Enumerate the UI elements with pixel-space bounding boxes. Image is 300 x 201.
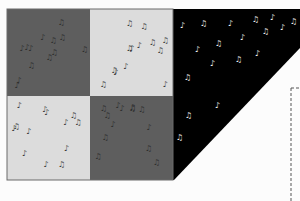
music-note-icon: ♫ [184, 73, 191, 82]
music-note-icon: ♪ [63, 118, 68, 127]
music-note-icon: ♪ [110, 120, 115, 129]
music-note-icon: ♫ [262, 27, 269, 36]
music-note-icon: ♫ [28, 61, 35, 70]
dashed-guide-line [291, 88, 300, 201]
music-note-icon: ♫ [290, 17, 297, 26]
music-note-icon: ♫ [50, 36, 57, 45]
music-note-icon: ♫ [126, 19, 133, 28]
music-note-icon: ♪ [215, 101, 220, 110]
music-note-icon: ♫ [252, 15, 259, 24]
black-triangle-patch [173, 9, 300, 180]
music-note-icon: ♪ [137, 41, 142, 50]
music-note-icon: ♫ [70, 111, 77, 120]
music-note-icon: ♪ [40, 33, 45, 42]
music-note-icon: ♫ [100, 80, 107, 89]
music-note-icon: ♫ [176, 133, 183, 142]
music-note-icon: ♫ [81, 45, 88, 54]
music-note-icon: ♫ [162, 36, 169, 45]
music-note-icon: ♫ [58, 18, 65, 27]
music-note-icon: ♪ [147, 123, 152, 132]
music-note-icon: ♫ [138, 105, 145, 114]
music-note-icon: ♪ [12, 124, 17, 133]
music-note-icon: ♫ [200, 19, 207, 28]
music-note-icon: ♪ [210, 59, 215, 68]
quilt-diagram: ♫♪♪♪♫♫♫♪♪♪♫♫♫♫♫♫♪♫♫♪♫♪♫♫♪♪♪♫♪♪♪♪♪♪♫♪♫♫♪♫… [0, 0, 300, 201]
music-note-icon: ♪ [163, 80, 168, 89]
music-note-icon: ♪ [43, 160, 48, 169]
music-note-icon: ♪ [228, 19, 233, 28]
music-note-icon: ♫ [95, 152, 102, 161]
music-note-icon: ♪ [113, 68, 118, 77]
music-note-icon: ♪ [26, 127, 31, 136]
music-note-icon: ♫ [51, 48, 58, 57]
music-note-icon: ♪ [123, 62, 128, 71]
music-note-icon: ♪ [44, 108, 49, 117]
music-note-icon: ♫ [145, 144, 152, 153]
music-note-icon: ♪ [195, 45, 200, 54]
music-note-icon: ♪ [64, 144, 69, 153]
music-note-icon: ♪ [24, 43, 29, 52]
music-note-icon: ♫ [100, 104, 107, 113]
music-note-icon: ♪ [180, 21, 185, 30]
music-note-icon: ♫ [235, 55, 242, 64]
music-note-icon: ♪ [240, 33, 245, 42]
music-note-icon: ♪ [17, 101, 22, 110]
music-note-icon: ♫ [102, 133, 109, 142]
music-note-icon: ♫ [129, 104, 136, 113]
music-note-icon: ♪ [255, 49, 260, 58]
music-note-icon: ♫ [126, 44, 133, 53]
music-note-icon: ♪ [270, 13, 275, 22]
music-note-icon: ♫ [185, 111, 192, 120]
music-note-icon: ♫ [58, 160, 65, 169]
music-note-icon: ♪ [280, 23, 285, 32]
music-note-icon: ♫ [215, 39, 222, 48]
music-note-icon: ♪ [22, 149, 27, 158]
quilt-patches [7, 9, 173, 180]
music-note-icon: ♪ [116, 101, 121, 110]
music-note-icon: ♫ [59, 33, 66, 42]
music-note-icon: ♫ [149, 38, 156, 47]
music-note-icon: ♪ [15, 81, 20, 90]
music-note-icon: ♫ [153, 158, 160, 167]
music-note-icon: ♫ [140, 22, 147, 31]
music-note-icon: ♫ [157, 46, 164, 55]
